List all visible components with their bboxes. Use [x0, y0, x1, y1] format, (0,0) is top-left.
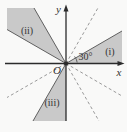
origin-label: O — [53, 64, 61, 76]
angle-30-label: 30° — [79, 51, 93, 62]
diagram-canvas: y x O 30° (i) (ii) (iii) — [0, 0, 127, 132]
region-ii-label: (ii) — [21, 25, 33, 37]
region-i-label: (i) — [105, 46, 114, 58]
origin-point — [64, 62, 68, 66]
angle-regions-figure: y x O 30° (i) (ii) (iii) — [0, 0, 127, 132]
y-axis-label: y — [55, 3, 61, 15]
x-axis-label: x — [116, 66, 122, 78]
region-iii-label: (iii) — [45, 97, 60, 109]
